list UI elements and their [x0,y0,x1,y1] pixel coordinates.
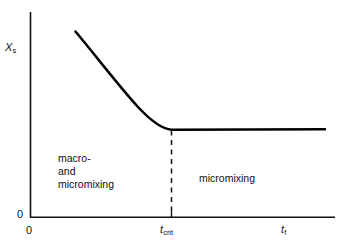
left-region-label: macro- and micromixing [58,152,114,190]
x-axis-origin-label: 0 [26,224,32,237]
x-tick-label-t-crit: tcrit [160,223,173,237]
t-f-label-subscript: f [284,228,286,237]
segregation-decay-curve [76,32,326,130]
y-axis-label-subscript: s [13,46,17,55]
y-axis-label-main: X [5,41,13,53]
y-axis-origin-label: 0 [17,208,23,221]
segregation-vs-time-figure: Xs 0 0 tcrit tf macro- and micromixing m… [0,0,343,246]
x-tick-label-t-f: tf [281,223,286,237]
t-crit-label-subscript: crit [163,228,173,237]
plot-canvas [0,0,343,246]
right-region-label: micromixing [199,172,255,185]
y-axis-label: Xs [5,41,16,55]
